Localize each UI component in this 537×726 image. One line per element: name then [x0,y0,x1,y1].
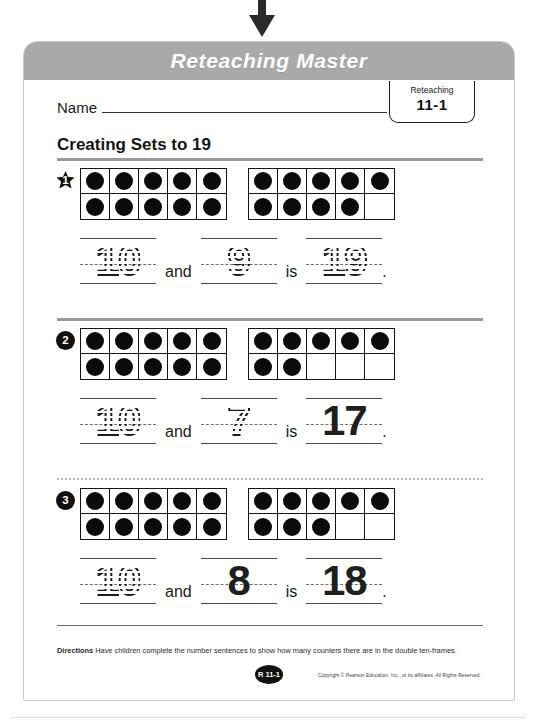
addend-2-blank[interactable]: 7 [201,394,277,450]
ten-frame-cell [307,489,336,514]
ten-frame-cell [197,329,226,354]
ten-frame-cell [249,489,278,514]
ten-frame-cell [249,354,278,379]
sum-blank[interactable]: 17 [306,394,382,450]
ten-frame-row [81,169,226,194]
ten-frame-row [249,514,394,539]
ten-frame-cell [81,194,110,219]
ten-frame-cell [168,354,197,379]
exercise-2: 210and7is17. [24,318,514,478]
counter-dot-icon [203,172,221,190]
name-input-line[interactable] [102,112,387,113]
counter-dot-icon [115,172,133,190]
sum-blank[interactable]: 18 [306,554,382,610]
page-bottom-edge [12,717,525,718]
counter-dot-icon [203,332,221,350]
counter-dot-icon [115,198,133,216]
name-field-row: Name [57,99,387,116]
counter-dot-icon [173,518,191,536]
counter-dot-icon [283,492,301,510]
counter-dot-icon [86,358,104,376]
ten-frame-cell [110,169,139,194]
ten-frame-row [249,194,394,219]
ten-frame-row [249,329,394,354]
ten-frame-cell [81,354,110,379]
ten-frame-cell [139,194,168,219]
footer-divider [57,625,483,626]
exercise-divider [57,318,483,321]
ten-frame-cell [307,329,336,354]
ten-frame-cell [365,489,394,514]
addend-1-blank[interactable]: 10 [80,394,156,450]
counter-dot-icon [115,332,133,350]
ten-frame-left [80,328,227,380]
counter-dot-icon [254,172,272,190]
exercise-divider [57,478,483,480]
counter-dot-icon [283,172,301,190]
ten-frame-cell [168,169,197,194]
counter-dot-icon [203,198,221,216]
answer-numeral: 17 [306,395,382,447]
badge-kind-label: Reteaching [390,85,474,96]
counter-dot-icon [283,358,301,376]
counter-dot-icon [173,492,191,510]
header-banner: Reteaching Master [24,42,514,80]
counter-dot-icon [86,492,104,510]
counter-dot-icon [144,332,162,350]
conjunction-and: and [156,263,201,290]
ten-frame-cell [336,329,365,354]
ten-frame-cell [139,329,168,354]
counter-dot-icon [254,358,272,376]
counter-dot-icon [173,172,191,190]
conjunction-and: and [156,423,201,450]
ten-frame-cell [197,489,226,514]
counter-dot-icon [86,332,104,350]
counter-dot-icon [371,492,389,510]
counter-dot-icon [283,518,301,536]
ten-frame-cell [197,169,226,194]
ten-frame-cell [139,514,168,539]
counter-dot-icon [254,198,272,216]
counter-dot-icon [173,198,191,216]
addend-2-blank[interactable]: 9 [201,234,277,290]
ten-frame-cell [110,329,139,354]
exercise-1: 110and9is19. [24,158,514,318]
ten-frame-cell [249,194,278,219]
worksheet-page: Reteaching Master Name Reteaching 11-1 C… [0,0,537,726]
lesson-title: Creating Sets to 19 [57,135,211,155]
ten-frame-cell [110,354,139,379]
sum-blank[interactable]: 19 [306,234,382,290]
directions-body: Have children complete the number senten… [95,646,457,655]
ten-frame-cell [336,194,365,219]
addend-1-blank[interactable]: 10 [80,234,156,290]
ten-frame-cell [168,194,197,219]
badge-lesson-number: 11-1 [390,96,474,113]
sentence-period: . [382,263,386,290]
ten-frame-left [80,488,227,540]
reteaching-tab-badge: Reteaching 11-1 [389,81,475,123]
ten-frame-cell [365,354,394,379]
addend-2-blank[interactable]: 8 [201,554,277,610]
counter-dot-icon [203,518,221,536]
counter-dot-icon [115,492,133,510]
counter-dot-icon [86,518,104,536]
counter-dot-icon [144,358,162,376]
ten-frame-right [248,488,395,540]
counter-dot-icon [312,492,330,510]
counter-dot-icon [115,358,133,376]
ten-frame-cell [168,489,197,514]
ten-frame-row [81,489,226,514]
counter-dot-icon [283,198,301,216]
exercise-number-marker: 1 [56,171,75,190]
ten-frame-cell [249,169,278,194]
ten-frame-cell [307,169,336,194]
ten-frame-row [81,194,226,219]
double-ten-frame [80,328,395,380]
ten-frame-cell [365,169,394,194]
exercise-3: 310and8is18. [24,478,514,638]
counter-dot-icon [371,332,389,350]
ten-frame-cell [110,489,139,514]
addend-1-blank[interactable]: 10 [80,554,156,610]
counter-dot-icon [254,518,272,536]
answer-numeral: 8 [201,555,277,607]
